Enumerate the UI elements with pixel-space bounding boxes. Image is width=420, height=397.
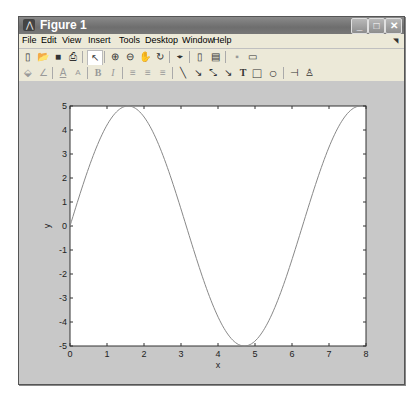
y-tick-label: 2 bbox=[62, 173, 67, 183]
y-tick-label: -3 bbox=[59, 293, 67, 303]
axes[interactable]: 012345678-5-4-3-2-1012345xy bbox=[42, 101, 369, 370]
y-tick-label: 1 bbox=[62, 197, 67, 207]
plot-svg: 012345678-5-4-3-2-1012345xy bbox=[0, 0, 420, 397]
x-tick-label: 6 bbox=[289, 349, 294, 359]
x-tick-label: 7 bbox=[326, 349, 331, 359]
y-tick-label: 3 bbox=[62, 149, 67, 159]
y-tick-label: 5 bbox=[62, 101, 67, 111]
x-tick-label: 2 bbox=[141, 349, 146, 359]
y-tick-label: -1 bbox=[59, 245, 67, 255]
y-tick-label: 4 bbox=[62, 125, 67, 135]
x-tick-label: 0 bbox=[67, 349, 72, 359]
x-tick-label: 5 bbox=[252, 349, 257, 359]
x-tick-label: 3 bbox=[178, 349, 183, 359]
x-tick-label: 8 bbox=[363, 349, 368, 359]
y-tick-label: 0 bbox=[62, 221, 67, 231]
y-tick-label: -2 bbox=[59, 269, 67, 279]
y-axis-label: y bbox=[42, 223, 52, 228]
x-tick-label: 1 bbox=[104, 349, 109, 359]
y-tick-label: -5 bbox=[59, 341, 67, 351]
x-tick-label: 4 bbox=[215, 349, 220, 359]
y-tick-label: -4 bbox=[59, 317, 67, 327]
x-axis-label: x bbox=[216, 360, 221, 370]
plot-area bbox=[70, 106, 366, 346]
